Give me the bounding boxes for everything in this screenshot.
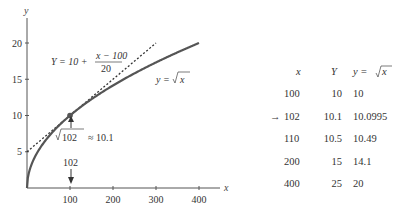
x-tick-label: 100 — [63, 194, 78, 205]
cell-Y: 15 — [332, 156, 343, 167]
approx-value: ≈ 10.1 — [88, 132, 114, 143]
header-Y: Y — [331, 66, 337, 77]
cell-x: 100 — [284, 88, 300, 99]
x-tick-label: 300 — [149, 194, 164, 205]
y-tick-label: 5 — [17, 146, 22, 157]
x-marker-label: 102 — [63, 157, 78, 168]
cell-y: 20 — [353, 178, 364, 189]
header-y-radicand: x — [382, 66, 387, 77]
cell-Y: 25 — [332, 178, 343, 189]
cell-y: 10.0995 — [353, 111, 387, 122]
cell-Y: 10 — [332, 88, 343, 99]
curve-label-radicand: x — [179, 74, 185, 85]
tangent-formula-lhs: Y = 10 + — [51, 56, 88, 67]
cell-x: 200 — [284, 156, 300, 167]
y-tick-label: 10 — [12, 110, 22, 121]
cell-x: 102 — [284, 111, 300, 122]
cell-Y: 10.1 — [324, 111, 342, 122]
header-y-lhs: y = — [353, 66, 367, 77]
y-axis-label: y — [23, 5, 29, 16]
tangent-formula-denominator: 20 — [101, 63, 111, 74]
cell-Y: 10.5 — [324, 133, 342, 144]
cell-y: 14.1 — [353, 156, 371, 167]
x-tick-label: 200 — [106, 194, 121, 205]
cell-y: 10.49 — [353, 133, 377, 144]
x-axis-label: x — [223, 182, 229, 193]
tangent-formula-numerator: x − 100 — [95, 50, 127, 61]
cell-x: 400 — [284, 178, 300, 189]
down-arrow-icon — [68, 177, 74, 184]
row-arrow-icon: → — [270, 111, 281, 122]
approx-radicand: 102 — [62, 132, 77, 143]
chart: y x 100200300400 5101520 Y = 10 + x − 10… — [0, 0, 250, 213]
y-tick-label: 15 — [12, 74, 22, 85]
tangent-point — [67, 113, 73, 119]
header-x: x — [296, 66, 301, 77]
cell-y: 10 — [353, 88, 364, 99]
y-tick-label: 20 — [12, 38, 22, 49]
curve-label-lhs: y = — [155, 74, 170, 85]
x-tick-label: 400 — [192, 194, 207, 205]
cell-x: 110 — [284, 133, 299, 144]
